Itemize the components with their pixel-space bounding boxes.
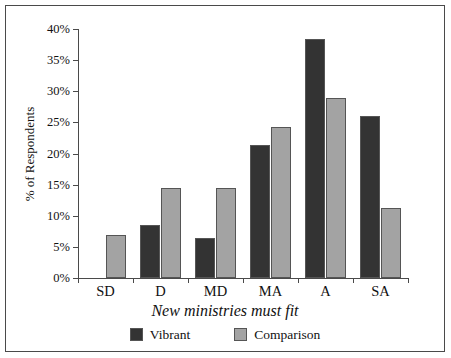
x-axis-tick [408, 278, 409, 283]
y-axis-tick-label: 10% [47, 210, 70, 223]
bar-group [243, 29, 298, 278]
x-axis-label-ma: MA [243, 283, 298, 300]
bar-d-vibrant[interactable] [140, 225, 160, 278]
y-axis-tick-label: 20% [47, 147, 70, 160]
y-axis-tick-label: 0% [53, 272, 70, 285]
legend-label-vibrant: Vibrant [150, 328, 190, 342]
bar-group [78, 29, 133, 278]
x-axis-label-md: MD [188, 283, 243, 300]
bar-sa-comparison[interactable] [381, 208, 401, 278]
x-axis-label-sa: SA [353, 283, 408, 300]
y-axis-tick-label: 25% [47, 116, 70, 129]
bar-group [133, 29, 188, 278]
bar-ma-vibrant[interactable] [250, 145, 270, 278]
bar-a-vibrant[interactable] [305, 39, 325, 278]
x-axis-title: New ministries must fit [6, 302, 444, 320]
bar-a-comparison[interactable] [326, 98, 346, 278]
bar-md-vibrant[interactable] [195, 238, 215, 278]
legend-label-comparison: Comparison [254, 328, 320, 342]
y-axis-tick-label: 35% [47, 54, 70, 67]
y-axis-tick-label: 30% [47, 85, 70, 98]
bar-group [298, 29, 353, 278]
x-axis-label-d: D [133, 283, 188, 300]
bar-group [188, 29, 243, 278]
chart-legend: VibrantComparison [6, 328, 444, 342]
plot-area: 0%5%10%15%20%25%30%35%40% SDDMDMAASA [78, 29, 408, 278]
legend-item-comparison[interactable]: Comparison [234, 328, 320, 342]
legend-swatch-vibrant [130, 328, 143, 341]
bar-group [353, 29, 408, 278]
bar-ma-comparison[interactable] [271, 127, 291, 278]
bar-md-comparison[interactable] [216, 188, 236, 278]
x-axis-label-a: A [298, 283, 353, 300]
y-axis-title: % of Respondents [22, 107, 38, 202]
y-axis-tick-label: 15% [47, 178, 70, 191]
x-axis-label-sd: SD [78, 283, 133, 300]
bar-sd-comparison[interactable] [106, 235, 126, 278]
legend-swatch-comparison [234, 328, 247, 341]
bar-sa-vibrant[interactable] [360, 116, 380, 278]
chart-frame: % of Respondents 0%5%10%15%20%25%30%35%4… [5, 5, 445, 352]
legend-item-vibrant[interactable]: Vibrant [130, 328, 190, 342]
bar-d-comparison[interactable] [161, 188, 181, 278]
y-axis-tick-label: 40% [47, 23, 70, 36]
y-axis-tick-label: 5% [53, 241, 70, 254]
